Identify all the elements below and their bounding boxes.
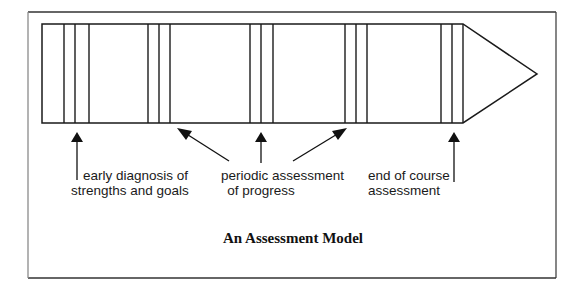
label-periodic-line-2: of progress — [211, 183, 311, 198]
assessment-model-diagram — [0, 0, 586, 294]
label-periodic-line-1: periodic assessment — [221, 168, 344, 183]
marker-group-1 — [64, 24, 89, 123]
marker-group-4 — [345, 24, 367, 123]
pointer-arrow-periodic-left — [177, 128, 229, 161]
label-end-line-1: end of course — [368, 168, 450, 183]
marker-group-5 — [441, 24, 463, 123]
label-end-line-2: assessment — [368, 183, 440, 198]
marker-group-2 — [148, 24, 170, 123]
pointer-arrow-periodic-center — [255, 132, 267, 163]
pointer-arrow-periodic-right — [293, 128, 347, 161]
marker-group-3 — [250, 24, 273, 123]
diagram-caption: An Assessment Model — [0, 230, 586, 247]
label-early-line-1: early diagnosis of — [83, 168, 188, 183]
pointer-arrow-early — [71, 132, 83, 180]
label-early-line-2: strengths and goals — [71, 183, 189, 198]
